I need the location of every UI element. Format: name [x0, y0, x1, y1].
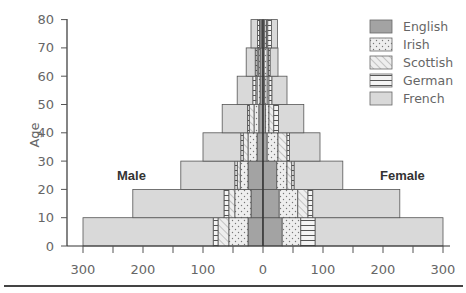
legend-label-scottish: Scottish [403, 55, 453, 70]
bar-irish-male-0-10 [229, 218, 248, 246]
bar-irish-female-20-30 [277, 161, 287, 189]
bar-scottish-male-10-20 [229, 189, 235, 217]
y-tick-label: 30 [37, 154, 54, 169]
bar-french-male-60-70 [246, 48, 255, 76]
bar-english-female-10-20 [263, 189, 279, 217]
bar-german-female-70-80 [268, 20, 272, 48]
y-tick-label: 70 [37, 40, 54, 55]
bar-irish-male-50-60 [257, 76, 260, 104]
x-tick-label: 300 [431, 262, 456, 277]
bar-scottish-male-30-40 [243, 133, 248, 161]
population-pyramid-chart: 010203040506070803002001000100200300 Eng… [0, 0, 466, 293]
bar-french-female-20-30 [294, 161, 343, 189]
bar-scottish-male-20-30 [237, 161, 240, 189]
legend-label-french: French [403, 91, 445, 106]
y-tick-label: 80 [37, 12, 54, 27]
bar-irish-female-10-20 [279, 189, 298, 217]
x-tick-label: 100 [311, 262, 336, 277]
bar-english-male-10-20 [251, 189, 263, 217]
y-tick-label: 50 [37, 97, 54, 112]
bar-scottish-male-0-10 [218, 218, 229, 246]
y-axis-title: Age [27, 122, 42, 147]
bar-scottish-female-30-40 [278, 133, 287, 161]
bar-french-female-60-70 [270, 48, 278, 76]
bar-english-male-20-30 [248, 161, 263, 189]
bar-french-male-10-20 [133, 189, 224, 217]
bar-french-male-30-40 [203, 133, 241, 161]
bar-german-female-50-60 [269, 76, 272, 104]
bar-french-female-30-40 [289, 133, 320, 161]
y-tick-label: 10 [37, 210, 54, 225]
legend-swatch-scottish [370, 56, 392, 69]
bar-english-female-0-10 [263, 218, 282, 246]
legend-label-irish: Irish [403, 37, 430, 52]
bar-german-male-0-10 [213, 218, 218, 246]
x-tick-label: 200 [131, 262, 156, 277]
bar-german-female-40-50 [274, 105, 279, 133]
bar-irish-female-0-10 [282, 218, 301, 246]
y-tick-label: 20 [37, 182, 54, 197]
bar-french-male-70-80 [251, 20, 258, 48]
x-tick-label: 0 [259, 262, 267, 277]
bar-french-male-0-10 [83, 218, 213, 246]
legend: EnglishIrishScottishGermanFrench [370, 19, 453, 106]
bar-irish-female-30-40 [267, 133, 278, 161]
bar-german-male-10-20 [224, 189, 229, 217]
bar-scottish-female-40-50 [269, 105, 274, 133]
bar-english-female-20-30 [263, 161, 277, 189]
bottom-rule-divider [4, 285, 463, 287]
y-tick-label: 0 [46, 239, 54, 254]
bar-irish-male-40-50 [254, 105, 259, 133]
bar-scottish-male-40-50 [249, 105, 254, 133]
y-tick-label: 60 [37, 69, 54, 84]
legend-swatch-english [370, 20, 392, 33]
legend-label-english: English [403, 19, 448, 34]
bar-german-female-10-20 [308, 189, 313, 217]
bar-french-female-40-50 [279, 105, 304, 133]
bar-french-female-0-10 [315, 218, 443, 246]
legend-swatch-german [370, 74, 392, 87]
bar-scottish-female-10-20 [298, 189, 308, 217]
legend-swatch-french [370, 92, 392, 105]
bar-scottish-female-20-30 [287, 161, 292, 189]
bar-german-male-50-60 [253, 76, 256, 104]
bar-irish-female-60-70 [264, 48, 267, 76]
x-tick-label: 300 [71, 262, 96, 277]
bar-irish-male-20-30 [240, 161, 248, 189]
x-tick-label: 200 [371, 262, 396, 277]
x-tick-label: 100 [191, 262, 216, 277]
bar-irish-male-10-20 [235, 189, 251, 217]
bar-german-female-0-10 [301, 218, 315, 246]
bar-french-male-40-50 [222, 105, 247, 133]
legend-label-german: German [403, 73, 453, 88]
bars-layer [83, 20, 443, 246]
bar-french-male-20-30 [181, 161, 235, 189]
bar-irish-female-40-50 [265, 105, 269, 133]
bar-french-female-50-60 [272, 76, 287, 104]
bar-french-male-50-60 [237, 76, 253, 104]
bar-english-male-30-40 [257, 133, 263, 161]
legend-swatch-irish [370, 38, 392, 51]
bar-french-female-10-20 [313, 189, 400, 217]
male-label: Male [117, 168, 146, 183]
bar-english-male-0-10 [248, 218, 263, 246]
bar-french-female-70-80 [271, 20, 277, 48]
bar-irish-male-30-40 [248, 133, 257, 161]
female-label: Female [380, 168, 425, 183]
